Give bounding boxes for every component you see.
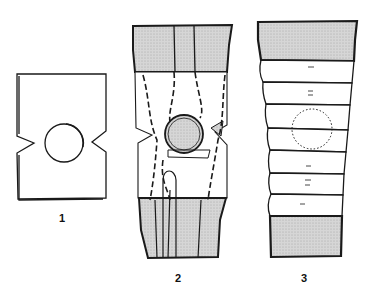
figure-3-label: 3	[301, 272, 307, 284]
figure-2-label: 2	[175, 272, 181, 284]
diagram-canvas	[0, 0, 367, 297]
figure-1-pad	[17, 74, 106, 200]
figure-2-applied	[133, 25, 232, 258]
figure-3-bandaged	[258, 21, 357, 257]
figure-1-label: 1	[59, 212, 65, 224]
